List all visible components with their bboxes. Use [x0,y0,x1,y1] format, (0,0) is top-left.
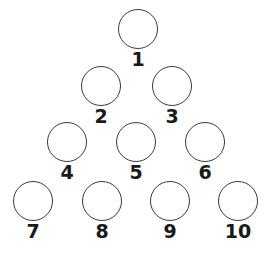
circle-outline-10[interactable] [218,181,258,221]
circle-outline-9[interactable] [150,181,190,221]
circle-outline-6[interactable] [185,122,225,162]
circle-label-5: 5 [96,163,176,182]
circle-outline-5[interactable] [116,122,156,162]
circle-outline-1[interactable] [118,9,158,49]
circle-label-10: 10 [198,222,273,241]
circle-outline-2[interactable] [81,66,121,106]
circle-label-6: 6 [165,163,245,182]
circle-outline-8[interactable] [82,181,122,221]
circle-outline-4[interactable] [47,122,87,162]
circle-outline-3[interactable] [152,66,192,106]
circle-triangle-figure: 12345678910 [0,0,273,253]
circle-label-4: 4 [27,163,107,182]
circle-outline-7[interactable] [13,181,53,221]
